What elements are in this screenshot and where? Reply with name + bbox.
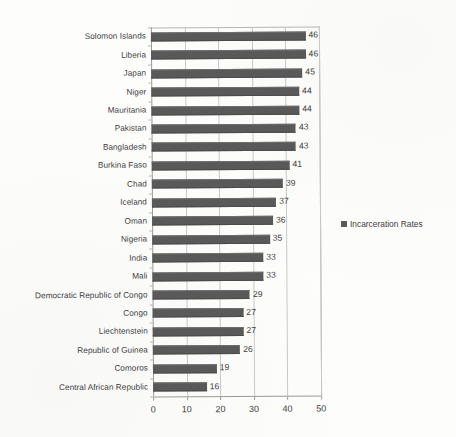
bar-value-label: 16 [210, 382, 220, 391]
category-label: Chad [127, 179, 147, 188]
bar-value-label: 35 [273, 234, 283, 243]
bar[interactable] [152, 234, 270, 244]
category-label: Comoros [114, 364, 148, 373]
category-label: Nigeria [121, 235, 147, 244]
bar[interactable] [152, 161, 290, 171]
bar[interactable] [153, 327, 244, 337]
category-label: Pakistan [115, 124, 147, 133]
bar-chart: 4646454444434341393736353333292727261916… [0, 0, 456, 437]
bar[interactable] [151, 50, 306, 60]
category-label: Mali [132, 272, 147, 281]
y-tickmark [148, 83, 151, 84]
y-tickmark [150, 342, 153, 343]
bar-value-label: 29 [253, 289, 263, 298]
bar-value-label: 37 [279, 197, 289, 206]
y-tickmark [148, 120, 151, 121]
category-label: Republic of Guinea [77, 345, 148, 354]
y-axis-tickmarks [0, 0, 455, 1]
y-tickmark [150, 360, 153, 361]
x-tickmark [288, 397, 289, 400]
y-tickmark [150, 323, 153, 324]
gridline [319, 27, 322, 396]
bar-value-label: 27 [246, 308, 256, 317]
legend-square-marker-icon [341, 221, 347, 227]
bar[interactable] [152, 216, 273, 226]
legend-entry-label: Incarceration Rates [350, 219, 423, 229]
y-tickmark [149, 194, 152, 195]
bar[interactable] [151, 68, 302, 78]
y-tickmark [149, 286, 152, 287]
y-tickmark [149, 268, 152, 269]
category-label: Liechtenstein [99, 327, 148, 336]
category-label: Democratic Republic of Congo [35, 290, 148, 300]
bar[interactable] [153, 382, 207, 391]
y-tickmark [150, 305, 153, 306]
x-axis-tickmarks [0, 0, 455, 1]
bar-value-label: 41 [292, 160, 302, 169]
bar-value-label: 43 [299, 123, 309, 132]
category-label: Niger [126, 87, 146, 96]
x-tick-label: 50 [301, 403, 341, 413]
bar[interactable] [152, 179, 283, 189]
bar-value-label: 46 [309, 49, 319, 58]
bar[interactable] [153, 345, 240, 355]
x-axis-line [153, 396, 322, 398]
bar-value-label: 44 [302, 105, 312, 114]
bar-series [0, 0, 455, 1]
bar-value-label: 19 [220, 363, 230, 372]
bar[interactable] [152, 290, 249, 300]
gridline [252, 27, 255, 396]
bar[interactable] [152, 253, 263, 263]
y-tickmark [150, 379, 153, 380]
x-tickmark [254, 397, 255, 400]
category-axis-labels: Solomon IslandsLiberiaJapanNigerMauritan… [0, 0, 455, 1]
bar-value-label: 44 [302, 86, 312, 95]
x-axis-tick-labels: 01020304050 [0, 0, 455, 1]
category-label: Iceland [120, 198, 147, 207]
category-label: Oman [125, 216, 148, 225]
category-label: Solomon Islands [85, 32, 146, 41]
plot-border-top [151, 27, 320, 29]
bar-value-label: 26 [243, 345, 253, 354]
x-tickmark [321, 397, 322, 400]
bar[interactable] [152, 271, 263, 281]
gridline [285, 27, 288, 396]
category-label: Liberia [121, 50, 146, 59]
x-tickmark [220, 397, 221, 400]
bar[interactable] [152, 198, 276, 208]
gridline [184, 27, 187, 396]
bar-value-label: 36 [276, 215, 286, 224]
gridline [218, 27, 221, 396]
y-tickmark [148, 28, 151, 29]
bar[interactable] [153, 364, 217, 373]
bar-value-label: 43 [299, 142, 309, 151]
y-tickmark [149, 249, 152, 250]
bar[interactable] [153, 308, 244, 318]
category-label: Central African Republic [59, 382, 148, 392]
bar[interactable] [152, 142, 297, 152]
y-tickmark [149, 157, 152, 158]
category-label: Japan [124, 69, 147, 78]
category-label: Bangladesh [103, 142, 147, 151]
category-label: India [129, 253, 147, 262]
chart-legend: Incarceration Rates [341, 219, 423, 229]
y-tickmark [149, 213, 152, 214]
y-tickmark [148, 102, 151, 103]
bar-value-label: 46 [308, 31, 318, 40]
category-label: Mauritania [108, 106, 147, 115]
x-tickmark [153, 398, 154, 401]
bar[interactable] [151, 87, 299, 97]
bar-value-label: 39 [286, 178, 296, 187]
bar[interactable] [151, 31, 306, 41]
bar-value-label: 45 [305, 68, 315, 77]
x-tickmark [187, 397, 188, 400]
bar[interactable] [151, 124, 296, 134]
bar-value-label: 33 [266, 252, 276, 261]
bar-value-label: 33 [266, 271, 276, 280]
bar-value-label: 27 [246, 326, 256, 335]
gridlines [0, 0, 455, 1]
bar[interactable] [151, 105, 299, 115]
category-label: Burkina Faso [98, 161, 147, 170]
y-tickmark [149, 139, 152, 140]
category-label: Congo [123, 309, 147, 318]
